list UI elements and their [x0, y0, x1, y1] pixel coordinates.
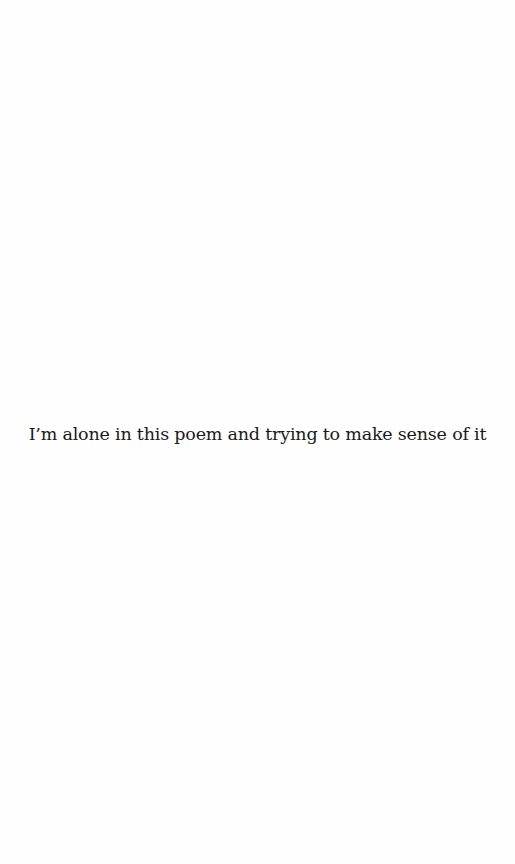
poem-line: I’m alone in this poem and trying to mak…: [0, 421, 515, 447]
book-page: I’m alone in this poem and trying to mak…: [0, 0, 515, 864]
